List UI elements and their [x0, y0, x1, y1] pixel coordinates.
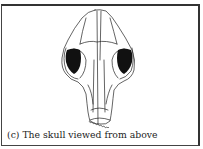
- orbit-right: [117, 49, 132, 75]
- orbit-left: [66, 49, 81, 75]
- midline-suture: [97, 11, 98, 124]
- figure-caption: (c) The skull viewed from above: [7, 129, 158, 140]
- skull-illustration: [0, 0, 203, 149]
